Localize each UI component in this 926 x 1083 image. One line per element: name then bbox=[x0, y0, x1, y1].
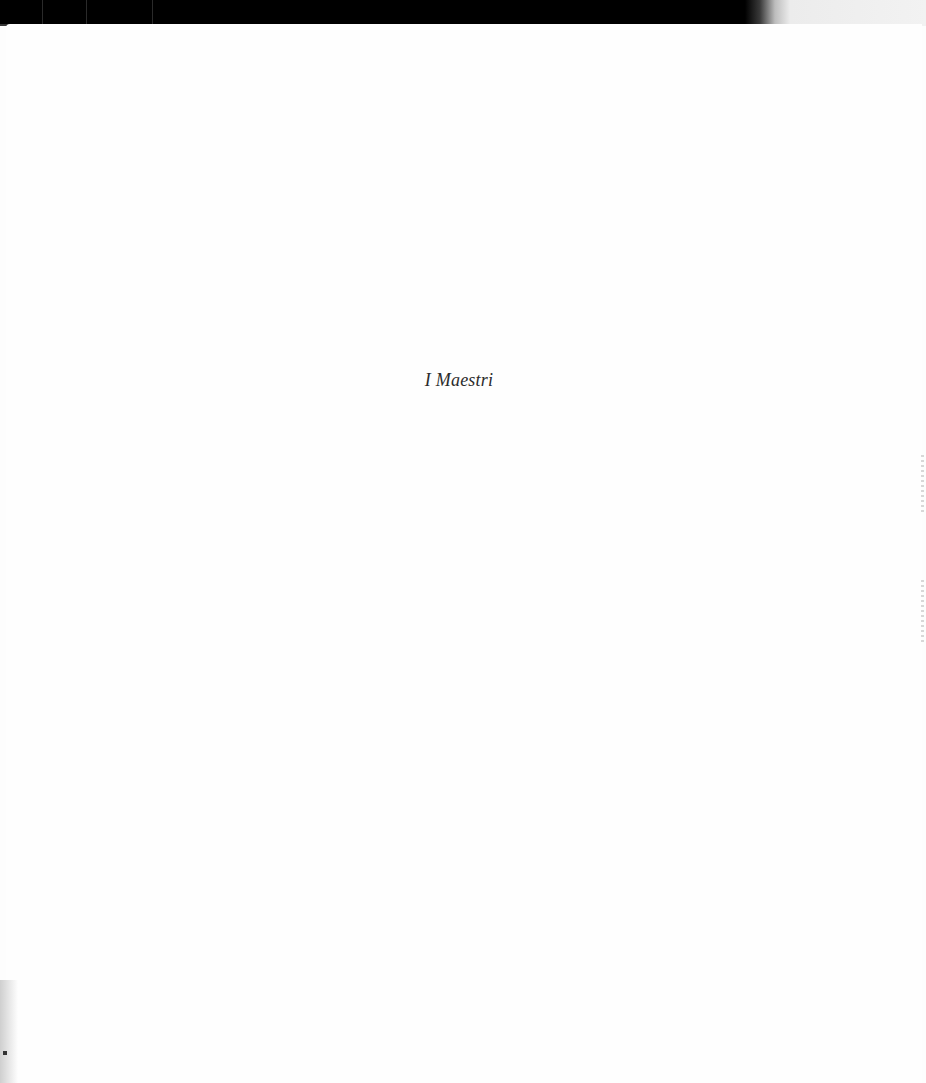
show-through-text bbox=[921, 580, 924, 645]
scan-top-dark-band bbox=[0, 0, 926, 26]
band-rule-line bbox=[42, 0, 43, 24]
band-rule-line bbox=[86, 0, 87, 24]
scan-mark bbox=[3, 1051, 7, 1055]
book-page: I Maestri bbox=[6, 24, 922, 1083]
scanned-page: I Maestri bbox=[0, 0, 926, 1083]
show-through-text bbox=[921, 455, 924, 515]
binding-shadow bbox=[0, 980, 18, 1083]
half-title: I Maestri bbox=[6, 370, 912, 391]
band-rule-line bbox=[152, 0, 153, 24]
